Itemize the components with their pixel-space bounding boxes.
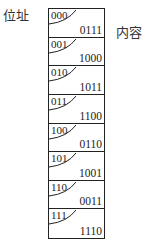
- memory-cell: 001 1000: [49, 38, 104, 67]
- content-label: 内容: [116, 22, 142, 41]
- address-label: 位址: [3, 5, 29, 24]
- cell-content: 1100: [79, 110, 102, 122]
- memory-cell: 111 1110: [49, 209, 104, 238]
- cell-address: 110: [51, 181, 67, 193]
- cell-address: 001: [51, 38, 68, 50]
- memory-cell: 101 1001: [49, 152, 104, 181]
- cell-content: 1011: [79, 81, 102, 93]
- cell-address: 101: [51, 152, 68, 164]
- memory-cell: 000 0111: [49, 9, 104, 38]
- memory-cell: 011 1100: [49, 95, 104, 124]
- cell-address: 100: [51, 124, 68, 136]
- cell-content: 1110: [80, 225, 102, 237]
- cell-content: 0111: [80, 24, 102, 36]
- cell-content: 0110: [79, 138, 102, 150]
- cell-address: 011: [51, 95, 67, 107]
- cell-address: 111: [51, 209, 67, 221]
- cell-content: 0011: [79, 195, 102, 207]
- cell-address: 000: [51, 9, 68, 21]
- cell-address: 010: [51, 66, 68, 78]
- memory-cell: 100 0110: [49, 124, 104, 153]
- cell-content: 1000: [79, 52, 102, 64]
- memory-cell: 110 0011: [49, 181, 104, 210]
- memory-table: 000 0111 001 1000 010 1011 011 1100 100 …: [48, 8, 105, 239]
- memory-cell: 010 1011: [49, 66, 104, 95]
- cell-content: 1001: [79, 167, 102, 179]
